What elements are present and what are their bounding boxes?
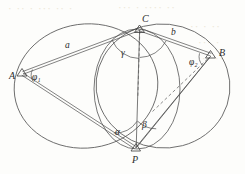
label-point-A: A xyxy=(8,70,16,81)
geometry-diagram: .ln{fill:none;stroke:#4e4e4e;stroke-widt… xyxy=(0,0,245,174)
label-angle-phi1: φ₁ xyxy=(32,72,41,82)
segment-CB-edge1 xyxy=(141,28,212,53)
arc-gamma-right xyxy=(140,41,166,58)
label-point-P: P xyxy=(131,154,138,165)
label-side-a: a xyxy=(65,40,70,50)
dashed-helpers xyxy=(138,31,208,112)
segment-BP-inner xyxy=(136,58,210,148)
segment-AP-edge2 xyxy=(22,75,135,148)
label-angle-beta: β xyxy=(141,120,147,130)
label-angle-alpha: α xyxy=(115,127,121,137)
single-segments xyxy=(136,31,211,148)
arc-phi2 xyxy=(199,53,202,65)
label-point-C: C xyxy=(142,13,149,24)
left-circle xyxy=(6,15,166,158)
figure-canvas: · ·· · ··· ·· · ··· · ···· ·· ·· · ·· ··… xyxy=(0,0,245,174)
angle-arcs xyxy=(31,40,202,133)
label-side-b: b xyxy=(171,27,176,37)
arc-gamma xyxy=(112,40,139,59)
label-angle-phi2: φ₂ xyxy=(189,57,198,67)
circle-group xyxy=(6,15,236,158)
label-angle-gamma: γ xyxy=(121,48,125,58)
label-point-B: B xyxy=(219,47,225,58)
